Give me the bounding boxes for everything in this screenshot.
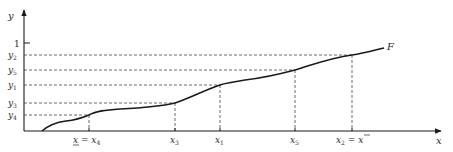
x-axis-label: x: [436, 135, 442, 146]
label-x1: x1: [215, 135, 224, 146]
vertical-guides: [89, 55, 352, 131]
horizontal-guides: [24, 55, 352, 115]
svg-text:y2: y2: [7, 50, 17, 61]
x-point-labels: x = x4 x3 x1 x5 x2 = x: [73, 135, 370, 146]
curve-F: [42, 48, 384, 131]
label-x4: x = x4: [73, 135, 100, 146]
y-tick-one-label: 1: [14, 39, 20, 49]
label-x3: x3: [170, 135, 179, 146]
y-level-labels: y2 y5 y1 y3 y4: [7, 50, 17, 121]
svg-text:y4: y4: [7, 110, 17, 121]
distribution-diagram: F y x 1 y2 y5 y1 y3 y4 x = x4 x3 x1 x5 x…: [0, 0, 453, 152]
label-x2: x2 = x: [336, 135, 363, 146]
svg-text:y5: y5: [7, 65, 17, 76]
curve-label: F: [386, 41, 395, 52]
y-axis-label: y: [7, 10, 14, 21]
svg-text:y3: y3: [7, 98, 17, 109]
svg-text:y1: y1: [7, 80, 17, 91]
label-x5: x5: [290, 135, 299, 146]
